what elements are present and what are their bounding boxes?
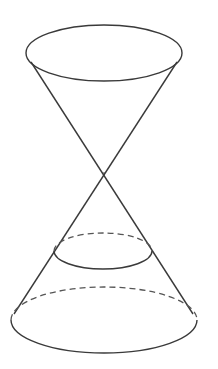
lower-base-back-arc [11,287,197,320]
cross-section-front-arc [54,251,152,269]
generator-line-right-to-left [14,62,177,314]
lower-base-front-arc [11,320,197,353]
double-cone-figure [0,0,218,369]
cone-apex [103,172,105,174]
double-cone-diagram [0,0,218,369]
upper-cone-rim [26,25,182,81]
cross-section-back-arc [54,233,152,251]
generator-line-left-to-right [31,62,193,314]
